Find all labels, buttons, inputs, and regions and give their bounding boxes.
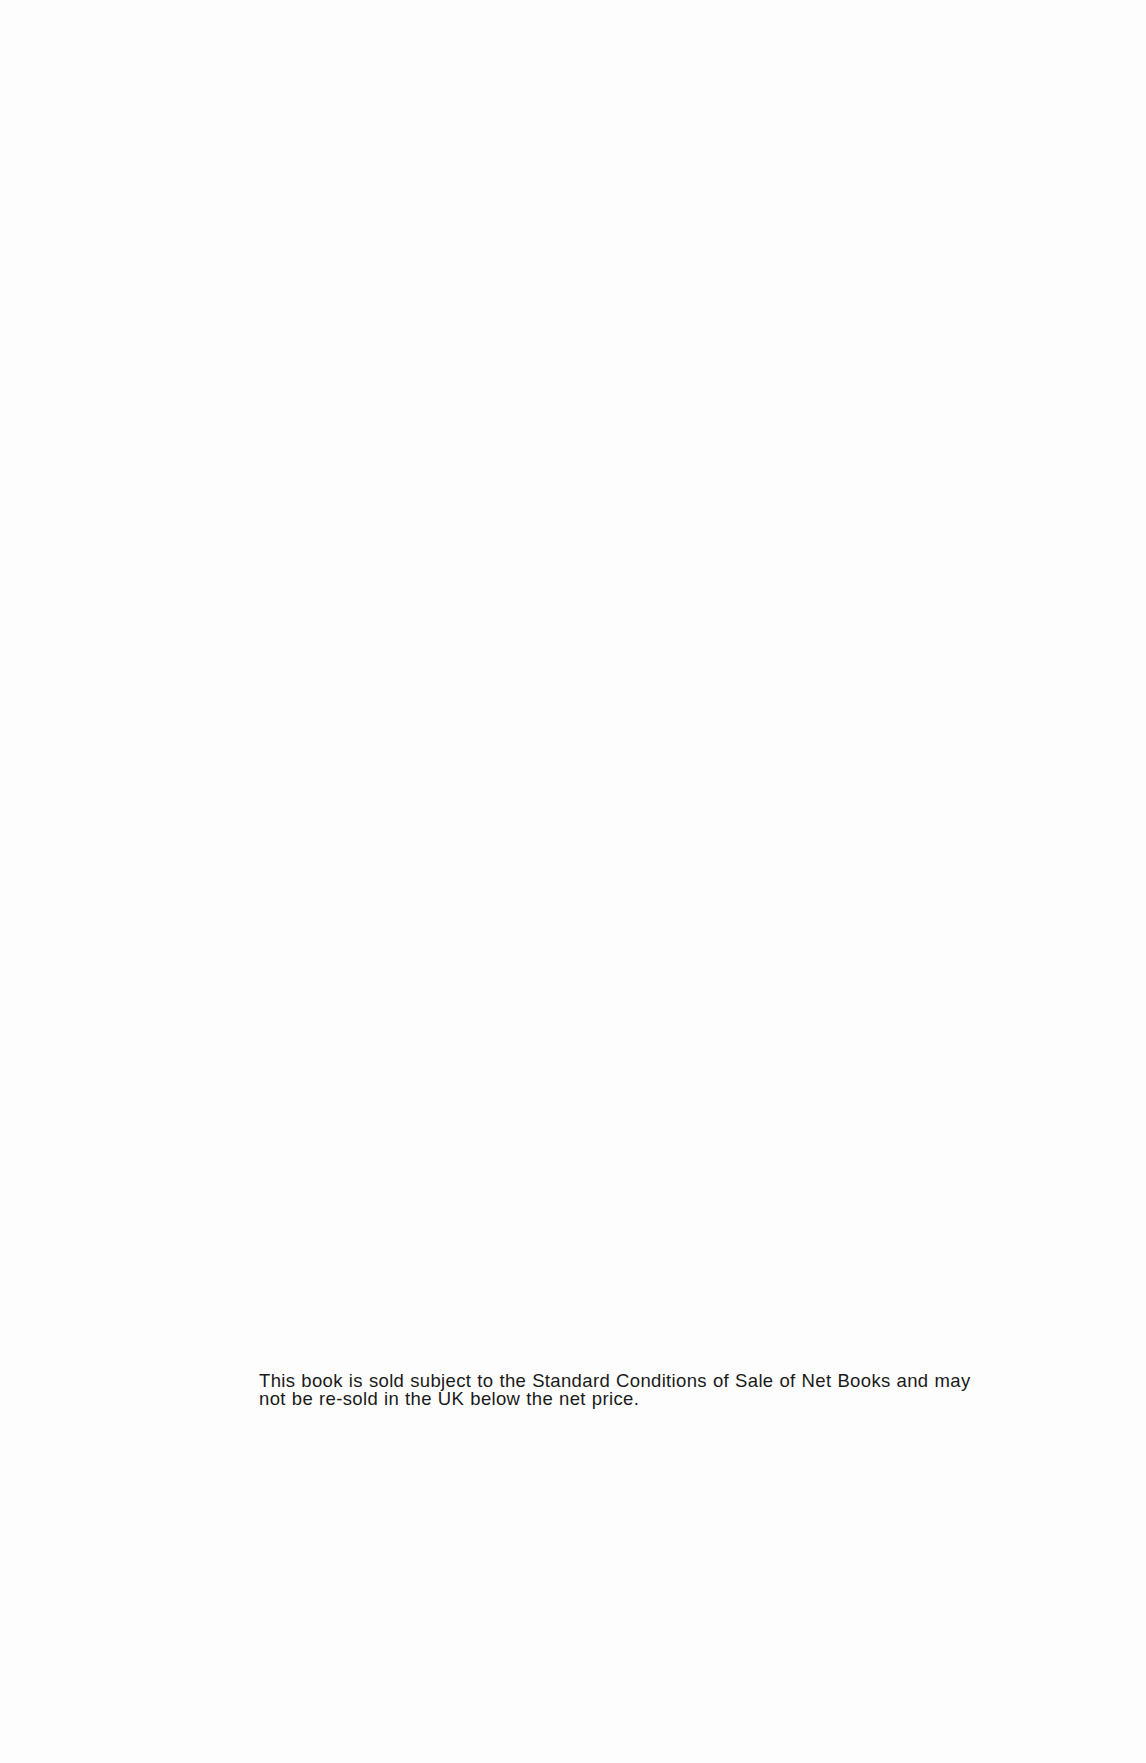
conditions-of-sale-notice: This book is sold subject to the Standar…: [259, 1372, 1079, 1408]
book-page: This book is sold subject to the Standar…: [0, 0, 1146, 1763]
notice-line-2: not be re-sold in the UK below the net p…: [259, 1390, 1079, 1408]
